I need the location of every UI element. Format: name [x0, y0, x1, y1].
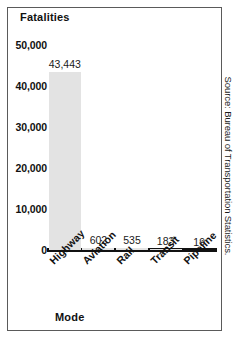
y-axis-tick-label: 10,000: [1, 203, 47, 215]
x-axis-title: Mode: [55, 311, 85, 323]
y-axis-tick-label: 20,000: [1, 162, 47, 174]
y-axis-tick-label: 30,000: [1, 121, 47, 133]
fatalities-by-mode-chart: Fatalities 50,00040,00030,00020,00010,00…: [0, 0, 252, 339]
y-axis-tick-label: 40,000: [1, 80, 47, 92]
y-axis-tick-labels: 50,00040,00030,00020,00010,0000: [0, 0, 47, 339]
bar: [49, 72, 81, 250]
y-axis-tick-label: 0: [1, 244, 47, 256]
bar-value-label: 535: [123, 234, 141, 246]
y-axis-tick-label: 50,000: [1, 39, 47, 51]
source-note: Source: Bureau of Transportation Statist…: [223, 77, 234, 256]
bar-value-label: 43,443: [49, 58, 81, 70]
